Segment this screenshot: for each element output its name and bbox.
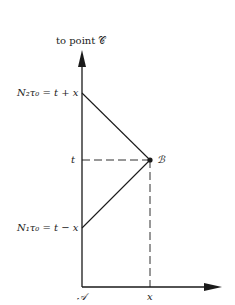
top-label: to point 𝒞 — [56, 36, 105, 46]
lower-y-label: N₁τ₀ = t − x — [17, 223, 78, 233]
ray-lower — [82, 160, 150, 228]
ray-upper — [82, 93, 150, 160]
point-b-marker — [147, 157, 152, 162]
x-axis-arrow-icon — [204, 283, 222, 291]
middle-y-label: t — [71, 155, 75, 165]
x-tick-label: x — [147, 292, 153, 302]
y-axis-arrow-icon — [78, 50, 86, 67]
point-b-label: ℬ — [157, 155, 165, 165]
origin-label: 𝒜 — [77, 292, 86, 302]
spacetime-diagram — [0, 0, 235, 305]
upper-y-label: N₂τ₀ = t + x — [17, 88, 78, 98]
